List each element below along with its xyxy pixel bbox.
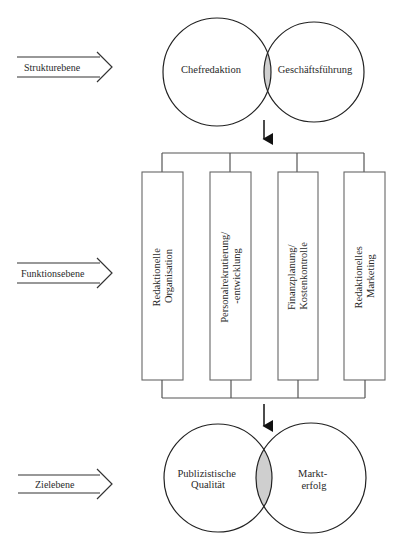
level-arrow-funktion: Funktionsebene xyxy=(17,258,112,288)
function-box-2: Personalrekrutierung/ -entwicklung xyxy=(210,172,251,380)
label-markterfolg: Markt- erfolg xyxy=(298,468,330,491)
level-label-struktur: Strukturebene xyxy=(24,62,81,73)
goals-venn: Publizistische Qualität Markt- erfolg xyxy=(164,423,366,533)
svg-text:Personalrekrutierung/ -e: Personalrekrutierung/ -entwicklung xyxy=(219,229,242,323)
label-geschaeftsfuehrung: Geschäftsführung xyxy=(278,64,353,75)
svg-text:Finanzplanung/ Kostenkon: Finanzplanung/ Kostenkontrolle xyxy=(286,242,309,310)
diagram: Strukturebene Funktionsebene Zielebene C… xyxy=(0,0,399,548)
function-box-1: Redaktionelle Organisation xyxy=(142,172,183,380)
svg-text:Redaktionelles Marketing: Redaktionelles Marketing xyxy=(353,243,376,308)
level-label-ziel: Zielebene xyxy=(35,479,75,490)
level-label-funktion: Funktionsebene xyxy=(21,268,85,279)
label-chefredaktion: Chefredaktion xyxy=(181,64,242,75)
bottom-connector xyxy=(162,380,365,398)
label-publizistische-qualitaet: Publizistische Qualität xyxy=(178,468,239,490)
top-connector xyxy=(162,153,364,172)
level-arrow-ziel: Zielebene xyxy=(18,469,112,499)
svg-text:Redaktionelle Organisati: Redaktionelle Organisation xyxy=(151,246,174,307)
function-box-3: Finanzplanung/ Kostenkontrolle xyxy=(278,172,318,380)
function-box-4: Redaktionelles Marketing xyxy=(344,172,385,380)
level-arrow-struktur: Strukturebene xyxy=(17,52,112,82)
structure-venn: Chefredaktion Geschäftsführung xyxy=(163,18,364,126)
